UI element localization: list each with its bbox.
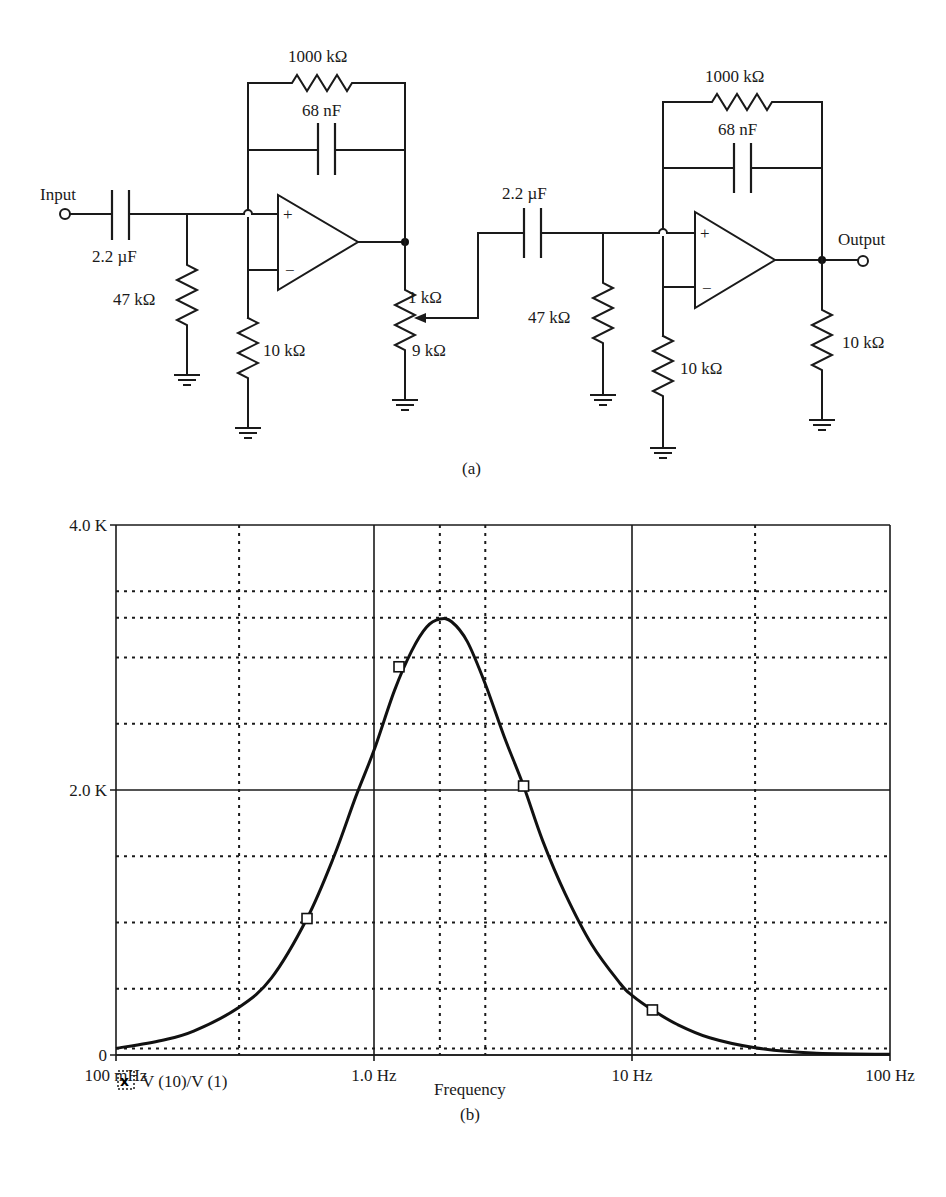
pot-top-label: 1 kΩ xyxy=(408,288,442,307)
legend-x-icon: x xyxy=(120,1073,129,1089)
plus-symbol: + xyxy=(700,224,710,243)
curve-marker xyxy=(519,781,529,791)
ground-icon xyxy=(651,448,675,458)
minus-symbol: − xyxy=(285,261,295,280)
y-tick-label: 0 xyxy=(99,1046,108,1065)
curve-marker xyxy=(394,662,404,672)
y-tick-label: 4.0 K xyxy=(69,516,108,535)
output-terminal-icon xyxy=(858,256,868,266)
x-tick-label: 100 Hz xyxy=(865,1066,915,1085)
pot-bottom-label: 9 kΩ xyxy=(412,341,446,360)
ground-icon xyxy=(393,400,417,410)
legend-label: V (10)/V (1) xyxy=(142,1072,227,1091)
cap-label: 2.2 µF xyxy=(502,184,547,203)
ground-res-label: 10 kΩ xyxy=(263,341,305,360)
shunt-res-label: 47 kΩ xyxy=(113,290,155,309)
feedback-res-label: 1000 kΩ xyxy=(705,67,764,86)
shunt-res-label: 47 kΩ xyxy=(528,308,570,327)
capacitor-icon xyxy=(318,123,335,175)
ground-icon xyxy=(236,428,260,438)
part-a-label: (a) xyxy=(462,459,481,478)
chart-axes xyxy=(110,525,890,1061)
capacitor-icon xyxy=(734,143,751,193)
part-b-label: (b) xyxy=(460,1105,480,1124)
feedback-cap-label: 68 nF xyxy=(718,120,757,139)
ground-icon xyxy=(591,395,615,405)
plus-symbol: + xyxy=(283,205,293,224)
input-terminal-icon xyxy=(60,209,70,219)
x-tick-label: 100 mHz xyxy=(85,1066,148,1085)
feedback-cap-label: 68 nF xyxy=(302,101,341,120)
tick-labels: 100 mHz1.0 Hz10 Hz100 Hz02.0 K4.0 K xyxy=(69,516,915,1085)
x-tick-label: 1.0 Hz xyxy=(351,1066,397,1085)
stage-1: Input 2.2 µF 47 kΩ + − 10 kΩ 1000 kΩ 68 … xyxy=(40,47,478,438)
capacitor-icon xyxy=(112,190,129,240)
frequency-response-chart: 100 mHz1.0 Hz10 Hz100 Hz02.0 K4.0 K x V … xyxy=(0,500,946,1197)
minus-symbol: − xyxy=(702,279,712,298)
capacitor-icon xyxy=(524,208,541,258)
curve-marker xyxy=(302,914,312,924)
ground-icon xyxy=(175,375,199,385)
output-label: Output xyxy=(838,230,886,249)
y-tick-label: 2.0 K xyxy=(69,781,108,800)
input-label: Input xyxy=(40,185,76,204)
circuit-schematic: Input 2.2 µF 47 kΩ + − 10 kΩ 1000 kΩ 68 … xyxy=(0,0,946,500)
cap-label: 2.2 µF xyxy=(92,247,137,266)
ground-icon xyxy=(810,420,834,430)
load-res-label: 10 kΩ xyxy=(842,333,884,352)
ground-res-label: 10 kΩ xyxy=(680,359,722,378)
curve-marker xyxy=(647,1005,657,1015)
x-tick-label: 10 Hz xyxy=(611,1066,653,1085)
feedback-res-label: 1000 kΩ xyxy=(288,47,347,66)
x-axis-label: Frequency xyxy=(434,1080,506,1099)
stage-2: 2.2 µF 47 kΩ + − Output 10 kΩ 1000 kΩ 68… xyxy=(478,67,886,458)
